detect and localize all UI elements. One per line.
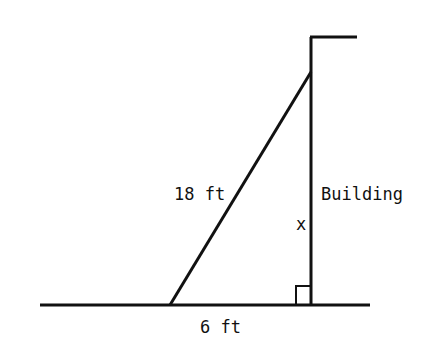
base-label: 6 ft [200, 317, 241, 337]
diagram-canvas: 18 ft x Building 6 ft [0, 0, 441, 354]
hypotenuse-label: 18 ft [174, 184, 225, 204]
height-label: x [296, 214, 306, 234]
building-label: Building [321, 184, 403, 204]
right-angle-marker [296, 286, 311, 305]
